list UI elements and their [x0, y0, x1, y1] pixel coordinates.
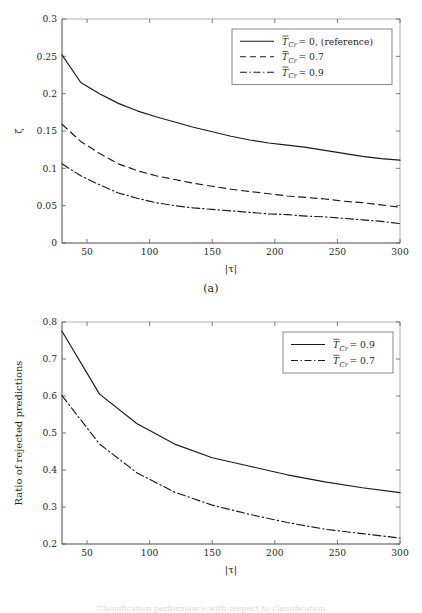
x-tick-label: 300 — [391, 246, 409, 257]
x-tick-label: 200 — [266, 547, 284, 558]
x-tick-label: 50 — [81, 547, 93, 558]
figure-panel-b: 501001502002503000.20.30.40.50.60.70.8|τ… — [0, 305, 422, 605]
legend-label-subscript: Cr — [289, 57, 298, 65]
legend-label-subscript: Cr — [340, 345, 349, 353]
chart-b-svg: 501001502002503000.20.30.40.50.60.70.8|τ… — [0, 305, 422, 583]
y-tick-label: 0.3 — [42, 13, 57, 24]
x-tick-label: 50 — [81, 246, 93, 257]
legend-label-value: = 0.7 — [350, 355, 375, 366]
x-tick-label: 150 — [203, 547, 221, 558]
y-tick-label: 0.25 — [37, 51, 58, 62]
x-tick-label: 300 — [391, 547, 409, 558]
y-tick-label: 0.05 — [37, 200, 58, 211]
x-axis-title: |τ| — [225, 263, 237, 275]
y-tick-label: 0 — [51, 237, 57, 248]
plot-area-a: 5010015020025030000.050.10.150.20.250.3|… — [0, 0, 422, 280]
x-tick-label: 150 — [203, 246, 221, 257]
data-series-line — [62, 164, 400, 224]
legend-label-value: = 0.7 — [299, 51, 324, 62]
x-tick-label: 200 — [266, 246, 284, 257]
figure-panel-a: 5010015020025030000.050.10.150.20.250.3|… — [0, 0, 422, 305]
legend-label-subscript: Cr — [289, 41, 298, 49]
legend-label-subscript: Cr — [340, 361, 349, 369]
chart-a-svg: 5010015020025030000.050.10.150.20.250.3|… — [0, 0, 422, 280]
x-axis-title: |τ| — [225, 564, 237, 576]
y-tick-label: 0.5 — [42, 427, 57, 438]
y-axis-title: Ratio of rejected predictions — [13, 361, 24, 506]
data-series-line — [62, 396, 400, 538]
legend-label-subscript: Cr — [289, 72, 298, 80]
legend-label-value: = 0, (reference) — [299, 36, 373, 47]
x-tick-label: 250 — [329, 246, 347, 257]
y-tick-label: 0.6 — [42, 390, 57, 401]
plot-area-b: 501001502002503000.20.30.40.50.60.70.8|τ… — [0, 305, 422, 583]
y-tick-label: 0.2 — [42, 88, 57, 99]
y-tick-label: 0.3 — [42, 501, 57, 512]
y-tick-label: 0.7 — [42, 353, 57, 364]
bottom-caption-fragment: Classification performance with respect … — [0, 604, 422, 613]
legend-label-value: = 0.9 — [299, 67, 324, 78]
y-axis-title: ζ — [13, 128, 24, 134]
x-tick-label: 100 — [141, 246, 159, 257]
y-tick-label: 0.4 — [42, 464, 57, 475]
y-tick-label: 0.15 — [37, 125, 58, 136]
y-tick-label: 0.8 — [42, 316, 57, 327]
x-tick-label: 250 — [329, 547, 347, 558]
y-tick-label: 0.2 — [42, 538, 57, 549]
y-tick-label: 0.1 — [42, 163, 57, 174]
legend-label-value: = 0.9 — [350, 339, 375, 350]
subcaption-a: (a) — [0, 282, 422, 295]
x-tick-label: 100 — [141, 547, 159, 558]
